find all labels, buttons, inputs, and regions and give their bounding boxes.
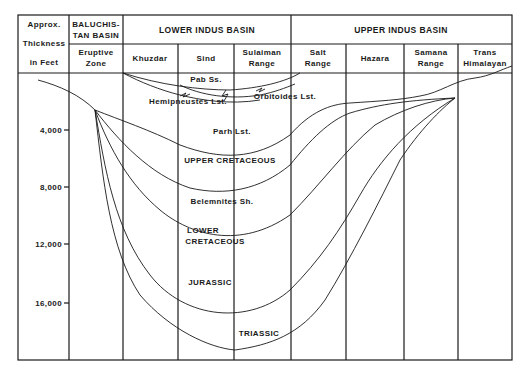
- axis-label-header: Approx. Thickness in Feet: [23, 20, 66, 67]
- horizon-curves: [38, 66, 512, 350]
- column-hazara: Hazara: [361, 54, 390, 63]
- column-eruptive-zone: Eruptive: [78, 48, 113, 57]
- y-axis: 4,000 8,000 12,000 16,000: [35, 126, 69, 308]
- y-tick-8000: 8,000: [40, 183, 62, 192]
- column-sulaiman-range: Sulaiman: [243, 48, 282, 57]
- svg-text:in Feet: in Feet: [30, 58, 59, 67]
- group-baluchistan-basin: TAN BASIN: [73, 31, 120, 40]
- column-salt-range: Salt: [310, 48, 326, 57]
- label-parh-lst: Parh Lst.: [213, 127, 251, 136]
- thickness-diagram: Approx. Thickness in Feet BALUCHIS- TAN …: [0, 0, 528, 373]
- column-headers: Eruptive Zone Khuzdar Sind Sulaiman Rang…: [78, 48, 506, 68]
- y-tick-4000: 4,000: [40, 126, 62, 135]
- label-hemipneustes-lst: Hemipneustes Lst.: [149, 97, 227, 106]
- group-baluchistan-basin: BALUCHIS-: [72, 20, 120, 29]
- column-samana-range: Range: [418, 59, 445, 68]
- label-orbitoides-lst: Orbitoides Lst.: [254, 92, 316, 101]
- svg-text:Thickness: Thickness: [23, 39, 66, 48]
- column-salt-range: Range: [305, 59, 332, 68]
- label-triassic: TRIASSIC: [239, 329, 280, 338]
- label-lower: LOWER: [187, 226, 219, 235]
- y-tick-16000: 16,000: [35, 299, 62, 308]
- column-samana-range: Samana: [414, 48, 447, 57]
- column-sulaiman-range: Range: [249, 59, 276, 68]
- column-trans-himalayan: Himalayan: [463, 59, 507, 68]
- column-khuzdar: Khuzdar: [133, 54, 168, 63]
- jurassic-base-curve: [95, 98, 455, 313]
- label-upper-cretaceous: UPPER CRETACEOUS: [184, 156, 276, 165]
- basin-group-headers: BALUCHIS- TAN BASIN LOWER INDUS BASIN UP…: [72, 20, 448, 40]
- group-upper-indus-basin: UPPER INDUS BASIN: [354, 25, 448, 35]
- svg-text:Approx.: Approx.: [27, 20, 60, 29]
- label-pab-ss: Pab Ss.: [190, 75, 222, 84]
- column-sind: Sind: [197, 54, 216, 63]
- lower-cretaceous-base-curve: [95, 98, 455, 236]
- group-lower-indus-basin: LOWER INDUS BASIN: [159, 25, 255, 35]
- y-tick-12000: 12,000: [35, 240, 62, 249]
- label-belemnites-sh: Belemnites Sh.: [191, 197, 254, 206]
- column-trans-himalayan: Trans: [473, 48, 496, 57]
- label-jurassic: JURASSIC: [188, 278, 232, 287]
- column-eruptive-zone: Zone: [86, 59, 107, 68]
- label-cretaceous: CRETACEOUS: [185, 237, 245, 246]
